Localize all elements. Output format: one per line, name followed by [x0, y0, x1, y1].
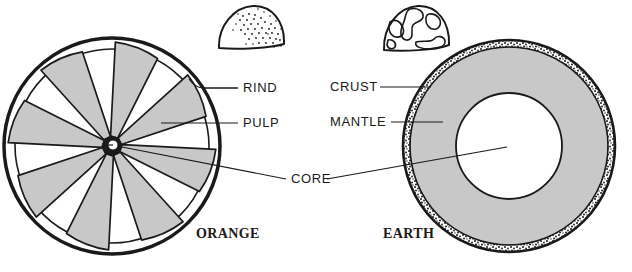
orange-earth-cutaway-figure: RIND PULP CORE CRUST MANTLE ORANGE EARTH [0, 0, 632, 272]
label-mantle: MANTLE [330, 114, 386, 129]
label-crust: CRUST [330, 79, 378, 94]
earth-globe-inset [384, 6, 449, 51]
label-rind: RIND [243, 80, 277, 95]
caption-earth: EARTH [383, 226, 434, 241]
orange-peel-inset [219, 6, 284, 49]
figure-canvas: RIND PULP CORE CRUST MANTLE ORANGE EARTH [0, 0, 632, 272]
earth-core [456, 93, 562, 199]
label-pulp: PULP [243, 115, 279, 130]
label-core: CORE [291, 171, 331, 186]
orange-peel-outline [219, 6, 284, 49]
orange-diagram [0, 30, 228, 262]
caption-orange: ORANGE [196, 226, 260, 241]
